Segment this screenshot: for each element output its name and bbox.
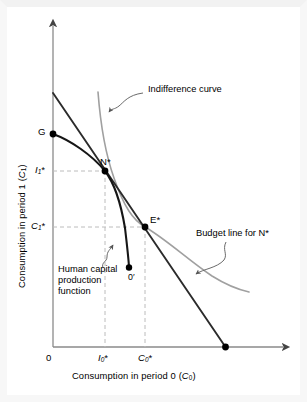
figure-root: Consumption in period 1 (C1) Consumption… — [0, 0, 307, 402]
point-label-E-star-mark: * — [156, 214, 160, 225]
point-E-star — [142, 224, 149, 231]
y-axis-title: Consumption in period 1 (C1) — [16, 164, 28, 288]
human-capital-production-function — [53, 134, 129, 267]
point-label-G: G — [38, 126, 45, 137]
budget-line — [53, 93, 226, 347]
x-tick-label-C0star: C0* — [138, 352, 152, 364]
point-label-N-star-mark: * — [107, 156, 111, 167]
x-tick-C0star-star: * — [149, 352, 153, 363]
y-axis-title-sub: 1 — [20, 168, 27, 172]
x-tick-label-I0star: I0* — [98, 352, 108, 364]
callout-human-capital: Human capital production function — [58, 264, 117, 297]
x-axis-title-var: C — [182, 370, 189, 381]
callout-human-capital-line1: Human capital — [58, 264, 117, 275]
axis-lines — [53, 26, 283, 347]
x-tick-C0star-var: C — [138, 352, 145, 363]
callout-indifference-curve: Indifference curve — [148, 84, 222, 95]
y-tick-C1star-star: * — [42, 220, 46, 231]
callout-human-capital-line3: function — [58, 286, 117, 297]
x-tick-I0star-star: * — [104, 352, 108, 363]
point-label-O-prime-mark: ′ — [133, 272, 135, 282]
point-label-N-star: N* — [100, 156, 111, 167]
indifference-curve-leader — [109, 93, 143, 112]
y-tick-C1star-var: C — [31, 220, 38, 231]
y-axis-title-suffix: ) — [16, 164, 27, 167]
x-axis-title-suffix: ) — [192, 370, 195, 381]
callout-budget-line: Budget line for N* — [196, 228, 269, 239]
point-budget-x-intercept — [222, 344, 229, 351]
callout-human-capital-line2: production — [58, 275, 117, 286]
point-label-O-prime: 0′ — [128, 272, 135, 282]
y-tick-label-I1star: I1* — [35, 164, 45, 176]
plot-area — [0, 0, 307, 402]
y-tick-label-C1star: C1* — [31, 220, 45, 232]
y-tick-I1star-star: * — [41, 164, 45, 175]
origin-tick-label: 0 — [46, 352, 51, 363]
x-axis-title-prefix: Consumption in period 0 ( — [72, 370, 182, 381]
point-label-E-star: E* — [150, 214, 160, 225]
callout-leaders — [103, 93, 226, 274]
point-G — [50, 131, 57, 138]
y-axis-title-prefix: Consumption in period 1 ( — [16, 178, 27, 288]
point-N-star — [102, 168, 109, 175]
y-axis-title-var: C — [16, 171, 27, 178]
point-label-N-text: N — [100, 156, 107, 167]
guide-lines — [53, 171, 145, 347]
point-O-prime — [126, 264, 132, 270]
budget-line-leader — [196, 242, 226, 274]
x-axis-title: Consumption in period 0 (C0) — [72, 370, 196, 382]
point-markers — [50, 131, 229, 351]
